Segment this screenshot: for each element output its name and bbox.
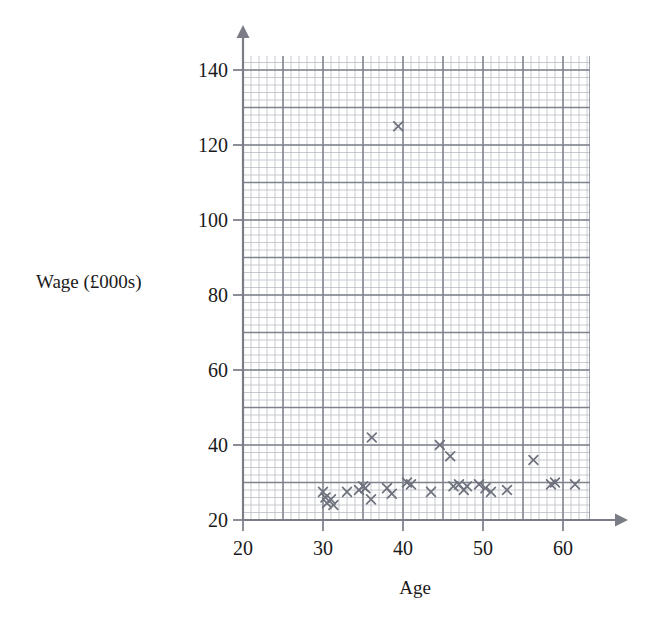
y-tick-label: 80 [208,284,228,306]
y-tick-label: 20 [208,509,228,531]
data-point-marker [571,480,580,489]
grid-major [243,56,590,520]
data-markers [319,122,580,510]
grid-minor [243,56,590,520]
x-axis-ticks [243,520,563,531]
x-tick-label: 40 [393,537,413,559]
y-tick-label: 40 [208,434,228,456]
scatter-graph-figure: 20406080100120140 2030405060 Wage (£000s… [0,0,647,621]
x-tick-label: 30 [313,537,333,559]
x-axis-tick-labels: 2030405060 [233,537,573,559]
scatter-plot-canvas: 20406080100120140 2030405060 Wage (£000s… [0,0,647,621]
data-point-marker [446,452,455,461]
x-tick-label: 50 [473,537,493,559]
x-tick-label: 60 [553,537,573,559]
x-tick-label: 20 [233,537,253,559]
y-axis-title: Wage (£000s) [36,271,142,293]
y-axis-ticks [233,70,243,520]
y-tick-label: 60 [208,359,228,381]
x-axis-title: Age [399,577,431,598]
y-tick-label: 140 [198,59,228,81]
y-tick-label: 120 [198,134,228,156]
data-point-marker [427,487,436,496]
y-tick-label: 100 [198,209,228,231]
y-axis-tick-labels: 20406080100120140 [198,59,228,531]
